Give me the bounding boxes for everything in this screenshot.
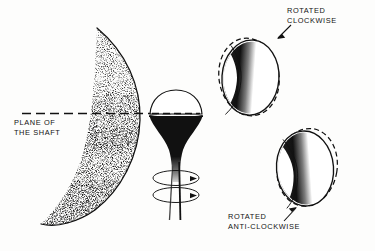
plane-label-line1: PLANE OF (14, 118, 55, 127)
anticlockwise-label-line1: ROTATED (228, 212, 266, 221)
rotated-anticlockwise-ellipse (271, 124, 342, 210)
rotated-anticlockwise-label: ROTATED ANTI-CLOCKWISE (228, 212, 300, 231)
anticlockwise-label-line2: ANTI-CLOCKWISE (228, 222, 300, 231)
bell-dome (150, 90, 202, 114)
rotated-clockwise-ellipse (213, 34, 284, 120)
clockwise-label-line1: ROTATED (287, 6, 325, 15)
bell-funnel (149, 115, 203, 182)
trumpet-shaft (149, 90, 203, 220)
ring-arrowhead-lower (190, 193, 197, 198)
plane-of-shaft-label: PLANE OF THE SHAFT (14, 118, 60, 137)
rotated-clockwise-label: ROTATED CLOCKWISE (287, 6, 337, 25)
shaft-line-left (170, 166, 173, 220)
ring-arrowhead-upper (190, 176, 197, 181)
clockwise-pointer-arrow (277, 25, 291, 39)
clockwise-label-line2: CLOCKWISE (287, 16, 337, 25)
plane-label-line2: THE SHAFT (14, 128, 60, 137)
